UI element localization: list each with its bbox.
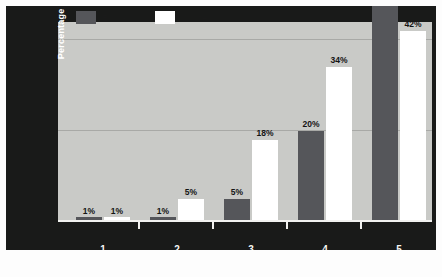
- bar-black-4: [298, 131, 324, 222]
- xtick-label-2: 2: [174, 244, 180, 250]
- bar-white-3: [252, 140, 278, 222]
- bar-label-white-5: 42%: [400, 19, 426, 29]
- xtick-label-3: 3: [248, 244, 254, 250]
- legend-label-black: Black: [102, 12, 127, 23]
- bar-black-3: [224, 199, 250, 222]
- bar-label-black-1: 1%: [76, 206, 102, 216]
- legend-swatch-black: [76, 11, 96, 24]
- bar-white-5: [400, 31, 426, 222]
- bar-label-black-4: 20%: [298, 119, 324, 129]
- xtick-label-1: 1: [100, 244, 106, 250]
- y-axis-label: Percentage of Matriculants: [56, 6, 70, 74]
- chart-legend: Black White: [76, 10, 229, 24]
- bar-label-white-4: 34%: [326, 55, 352, 65]
- chart-figure: Black White 0 20 40 60 80 Percentage of …: [6, 6, 436, 250]
- xtick-label-4: 4: [322, 244, 328, 250]
- bar-label-black-3: 5%: [224, 187, 250, 197]
- bar-label-black-2: 1%: [150, 206, 176, 216]
- bar-label-white-3: 18%: [252, 128, 278, 138]
- bar-white-4: [326, 67, 352, 222]
- legend-label-white: White: [181, 12, 207, 23]
- bar-label-white-1: 1%: [104, 206, 130, 216]
- legend-swatch-white: [155, 11, 175, 24]
- bar-label-white-2: 5%: [178, 187, 204, 197]
- bar-black-5: [372, 6, 398, 222]
- bar-white-2: [178, 199, 204, 222]
- xtick-label-5: 5: [396, 244, 402, 250]
- x-axis-baseline: [58, 220, 432, 222]
- plot-area: Black White 0 20 40 60 80 Percentage of …: [58, 22, 432, 222]
